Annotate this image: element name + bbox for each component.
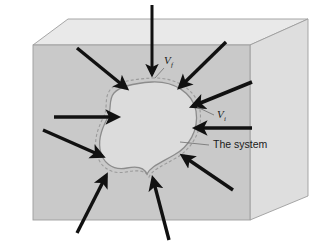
label-volume-initial-subscript: i bbox=[224, 115, 226, 123]
box-right-face bbox=[250, 19, 308, 220]
system-diagram: V f V i The system bbox=[0, 0, 320, 246]
label-the-system: The system bbox=[213, 138, 268, 150]
figure-canvas: V f V i The system bbox=[0, 0, 320, 246]
